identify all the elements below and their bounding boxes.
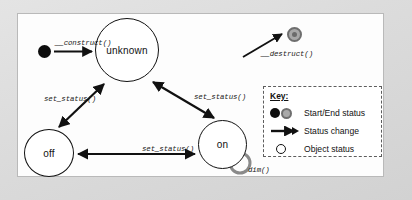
edge-label-set-status-left: set_status() [44,95,96,103]
legend-item-status-change-label: Status change [304,126,359,136]
legend-item-status-change: Status change [270,122,376,140]
node-off-label: off [43,148,55,159]
edge-off-unknown [59,84,104,127]
edge-label-dim: dim() [248,166,270,174]
node-start-status [38,45,51,58]
diagram-panel: unknown off on __construct() __destruct(… [17,13,384,177]
node-unknown: unknown [95,18,159,82]
legend-item-object-status-label: Object status [304,144,354,154]
edge-label-set-status-middle: set_status() [142,145,194,153]
legend-box: Key: Start/End status Status change [263,86,382,157]
legend-item-start-end: Start/End status [270,104,376,122]
node-end-status [287,27,302,42]
node-on: on [198,120,247,169]
node-unknown-label: unknown [106,45,147,56]
edge-label-construct: __construct() [55,39,111,47]
diagram-screenshot: unknown off on __construct() __destruct(… [0,0,412,200]
edge-label-destruct: __destruct() [261,50,313,58]
object-status-icon [270,144,300,154]
node-off: off [24,129,74,177]
start-end-status-icon [270,108,300,119]
legend-item-object-status: Object status [270,140,376,158]
node-on-label: on [217,139,229,150]
edge-label-set-status-right: set_status() [194,93,246,101]
legend-title: Key: [270,91,376,101]
arrow-icon [270,126,300,136]
legend-item-start-end-label: Start/End status [304,108,365,118]
